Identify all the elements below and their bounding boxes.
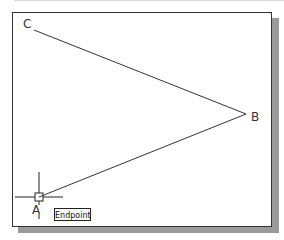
drawing-canvas[interactable] (0, 0, 284, 240)
point-label-a: A (32, 204, 40, 216)
osnap-endpoint-tooltip: Endpoint (54, 208, 91, 221)
line-c-to-b[interactable] (34, 30, 246, 114)
point-label-b: B (251, 111, 259, 123)
crosshair-cursor-icon (15, 172, 63, 205)
point-label-c: C (23, 18, 31, 30)
line-b-to-a[interactable] (39, 114, 246, 197)
